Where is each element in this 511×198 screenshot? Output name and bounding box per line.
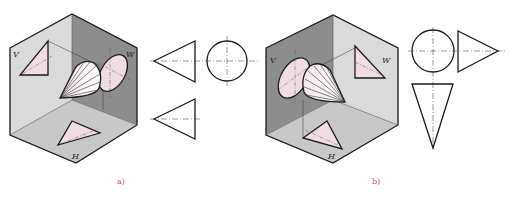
caption-a: a) [117, 177, 125, 186]
caption-b: b) [372, 177, 380, 186]
panel-b-box: V W H [266, 15, 398, 163]
panel-b-views [408, 27, 506, 148]
b-side-view-triangle [408, 31, 506, 72]
projection-figure: V W H a) [0, 0, 511, 198]
a-top-view-triangle [150, 99, 200, 139]
b-top-view-triangle [412, 84, 453, 148]
plane-label-w-b: W [382, 56, 391, 65]
plane-label-h-b: H [327, 152, 336, 161]
panel-a-views [150, 36, 258, 139]
plane-label-w: W [126, 50, 135, 59]
plane-label-h: H [71, 152, 80, 161]
panel-a-box: V W H [10, 14, 137, 163]
b-front-view-circle [412, 27, 454, 148]
